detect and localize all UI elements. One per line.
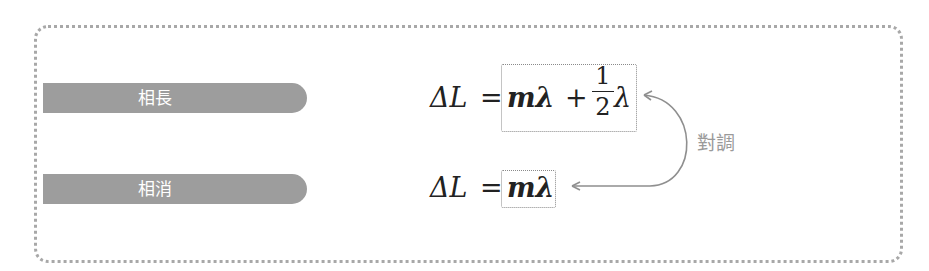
swap-arrow-icon	[0, 0, 929, 271]
swap-label: 對調	[697, 128, 735, 155]
